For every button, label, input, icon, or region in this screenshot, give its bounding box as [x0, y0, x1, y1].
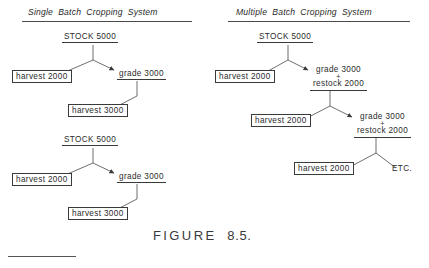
- node-harvest-right-l1-label: harvest 2000: [219, 72, 271, 81]
- node-harvest-left-2-a: harvest 2000: [12, 173, 72, 186]
- footnote-rule: [8, 256, 76, 257]
- figure-caption-label: FIGURE: [153, 228, 217, 243]
- figure-caption-number: 8.5.: [227, 228, 251, 243]
- node-stock-right: STOCK 5000: [257, 32, 313, 43]
- node-grade-restock-right-l2: grade 3000 + restock 2000: [354, 113, 411, 138]
- node-harvest-right-l3-label: harvest 2000: [298, 164, 350, 173]
- panel-title-multiple-batch: Multiple Batch Cropping System: [236, 7, 372, 17]
- node-grade-left-1: grade 3000: [117, 69, 166, 80]
- node-harvest-left-2-b: harvest 3000: [68, 207, 128, 220]
- node-grade-restock-right-l1: grade 3000 + restock 2000: [310, 66, 367, 91]
- node-stock-left-1: STOCK 5000: [62, 32, 118, 43]
- figure-caption: FIGURE 8.5.: [153, 228, 251, 243]
- panel-title-rule-left: [22, 21, 192, 22]
- node-harvest-right-l2: harvest 2000: [251, 114, 311, 127]
- node-harvest-left-1-a: harvest 2000: [12, 70, 72, 83]
- node-grade-left-2: grade 3000: [117, 172, 166, 183]
- node-etc-right: ETC.: [391, 164, 413, 173]
- node-harvest-right-l3: harvest 2000: [294, 162, 354, 175]
- panel-title-rule-right: [228, 21, 410, 22]
- node-harvest-right-l1: harvest 2000: [215, 70, 275, 83]
- node-stock-left-2: STOCK 5000: [62, 135, 118, 146]
- restock-line: restock 2000: [357, 126, 408, 135]
- panel-title-single-batch: Single Batch Cropping System: [28, 7, 158, 17]
- node-harvest-right-l2-label: harvest 2000: [255, 116, 307, 125]
- figure-8-5: Single Batch Cropping System Multiple Ba…: [0, 0, 429, 268]
- restock-line: restock 2000: [313, 79, 364, 88]
- node-harvest-left-1-b: harvest 3000: [68, 104, 128, 117]
